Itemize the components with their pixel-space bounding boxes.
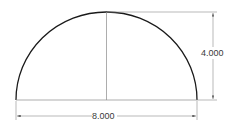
drawing-canvas: 4.000 8.000 bbox=[0, 0, 237, 129]
height-dimension-label: 4.000 bbox=[201, 48, 224, 58]
width-dimension-label: 8.000 bbox=[92, 111, 115, 121]
